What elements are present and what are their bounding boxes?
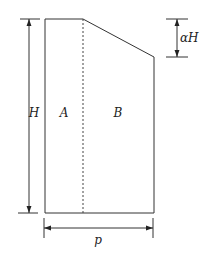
- region-a-label: A: [59, 106, 69, 120]
- height-label: H: [28, 106, 40, 120]
- width-label: p: [94, 233, 102, 247]
- alpha-height-label: αH: [180, 31, 199, 45]
- region-b-label: B: [113, 106, 123, 120]
- diagram-canvas: H A B αH p: [0, 0, 209, 255]
